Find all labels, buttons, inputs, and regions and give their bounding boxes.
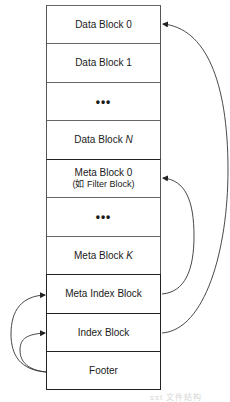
arrow-index-to-data-block-0 [162, 24, 228, 333]
pointer-arrows [0, 0, 230, 402]
arrow-meta-index-to-meta-block-0 [162, 178, 194, 294]
arrow-footer-to-index [20, 333, 46, 372]
figure-caption: sst 文件结构 [150, 391, 202, 402]
